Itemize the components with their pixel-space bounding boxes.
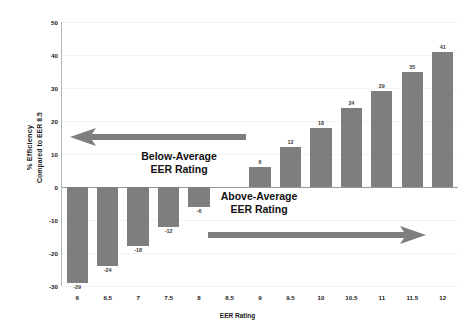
gridline bbox=[62, 22, 458, 23]
bar-value-label: 6 bbox=[259, 159, 262, 165]
right-arrow-icon bbox=[208, 226, 426, 244]
above-average-line2: EER Rating bbox=[194, 203, 324, 216]
bar bbox=[67, 187, 88, 283]
gridline bbox=[62, 253, 458, 254]
y-tick-label: 40 bbox=[51, 52, 58, 59]
bar-value-label: 24 bbox=[348, 100, 354, 106]
bar bbox=[341, 108, 362, 187]
below-average-annotation: Below-Average EER Rating bbox=[114, 150, 244, 175]
y-axis-title-line2: Compared to EER 8.5 bbox=[34, 68, 44, 228]
x-tick-label: 8 bbox=[197, 294, 200, 301]
x-tick-label: 10 bbox=[317, 294, 324, 301]
y-tick-label: -20 bbox=[49, 250, 58, 257]
y-axis-title: % Efficiency Compared to EER 8.5 bbox=[25, 68, 44, 228]
y-tick-label: 0 bbox=[55, 184, 58, 191]
bar-value-label: 29 bbox=[379, 83, 385, 89]
bar bbox=[371, 91, 392, 187]
gridline bbox=[62, 55, 458, 56]
x-tick-label: 10.5 bbox=[345, 294, 357, 301]
bar-value-label: 41 bbox=[440, 44, 446, 50]
bar-value-label: -24 bbox=[104, 267, 112, 273]
y-tick-label: 30 bbox=[51, 85, 58, 92]
below-average-line1: Below-Average bbox=[114, 150, 244, 163]
y-tick-label: -10 bbox=[49, 217, 58, 224]
y-tick-label: 50 bbox=[51, 19, 58, 26]
bar-value-label: -18 bbox=[134, 247, 142, 253]
bar bbox=[280, 147, 301, 187]
bar-value-label: -29 bbox=[73, 284, 81, 290]
left-arrow-icon bbox=[70, 128, 246, 146]
gridline bbox=[62, 88, 458, 89]
x-tick-label: 8.5 bbox=[225, 294, 234, 301]
above-average-line1: Above-Average bbox=[194, 190, 324, 203]
plot-area: 50403020100-10-20-30 -29-24-18-12-661218… bbox=[62, 22, 458, 286]
gridline bbox=[62, 121, 458, 122]
x-axis-title: EER Rating bbox=[0, 312, 475, 319]
x-tick-label: 6 bbox=[75, 294, 78, 301]
y-tick-label: 10 bbox=[51, 151, 58, 158]
bar bbox=[310, 128, 331, 187]
y-tick-label: -30 bbox=[49, 283, 58, 290]
bar bbox=[127, 187, 148, 246]
zero-baseline bbox=[62, 187, 458, 188]
bar bbox=[158, 187, 179, 227]
bar-value-label: 12 bbox=[287, 139, 293, 145]
bar bbox=[249, 167, 270, 187]
x-tick-label: 7 bbox=[136, 294, 139, 301]
bar-value-label: -12 bbox=[165, 228, 173, 234]
y-axis-title-line1: % Efficiency bbox=[25, 68, 35, 228]
bar bbox=[97, 187, 118, 266]
gridline bbox=[62, 220, 458, 221]
x-tick-label: 12 bbox=[439, 294, 446, 301]
bar bbox=[432, 52, 453, 187]
x-tick-label: 11.5 bbox=[406, 294, 418, 301]
bar bbox=[402, 72, 423, 188]
eer-efficiency-bar-chart: % Efficiency Compared to EER 8.5 EER Rat… bbox=[0, 0, 475, 333]
below-average-line2: EER Rating bbox=[114, 163, 244, 176]
x-tick-label: 9.5 bbox=[286, 294, 295, 301]
x-tick-label: 11 bbox=[379, 294, 386, 301]
y-tick-label: 20 bbox=[51, 118, 58, 125]
bar-value-label: 35 bbox=[409, 64, 415, 70]
x-tick-label: 7.5 bbox=[164, 294, 173, 301]
x-tick-label: 9 bbox=[258, 294, 261, 301]
above-average-annotation: Above-Average EER Rating bbox=[194, 190, 324, 215]
gridline bbox=[62, 286, 458, 287]
x-tick-label: 6.5 bbox=[103, 294, 112, 301]
bar-value-label: 18 bbox=[318, 120, 324, 126]
